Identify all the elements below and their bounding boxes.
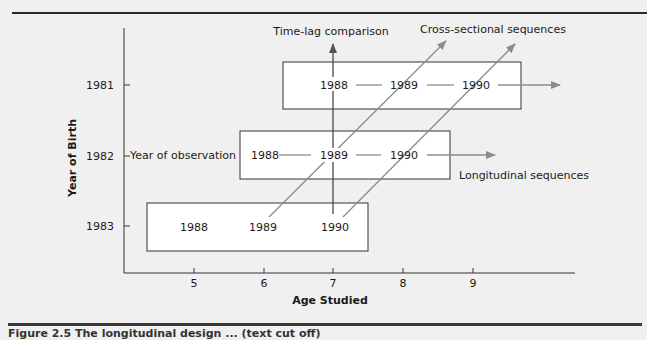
bottom-rule — [8, 323, 642, 326]
y-tick-1981: 1981 — [86, 79, 114, 92]
longitudinal-label: Longitudinal sequences — [459, 169, 589, 182]
obs-1982-1989: 1989 — [320, 149, 348, 162]
obs-1981-1990: 1990 — [462, 79, 490, 92]
obs-1982-1990: 1990 — [390, 149, 418, 162]
cross-sectional-label: Cross-sectional sequences — [420, 23, 566, 36]
obs-1983-1989: 1989 — [249, 221, 277, 234]
year-of-observation-label: Year of observation — [129, 149, 236, 162]
x-tick-5: 5 — [191, 277, 198, 290]
obs-1983-1990: 1990 — [321, 221, 349, 234]
x-tick-8: 8 — [400, 277, 407, 290]
figure-caption: Figure 2.5 The longitudinal design ... (… — [8, 328, 320, 340]
x-tick-7: 7 — [330, 277, 337, 290]
y-axis-label: Year of Birth — [66, 119, 79, 198]
y-tick-1983: 1983 — [86, 220, 114, 233]
obs-1981-1988: 1988 — [320, 79, 348, 92]
obs-1983-1988: 1988 — [180, 221, 208, 234]
x-axis-label: Age Studied — [292, 294, 368, 307]
y-tick-1982: 1982 — [86, 150, 114, 163]
time-lag-label: Time-lag comparison — [272, 25, 388, 38]
obs-1982-1988: 1988 — [251, 149, 279, 162]
obs-1981-1989: 1989 — [390, 79, 418, 92]
x-tick-9: 9 — [470, 277, 477, 290]
x-tick-6: 6 — [261, 277, 268, 290]
